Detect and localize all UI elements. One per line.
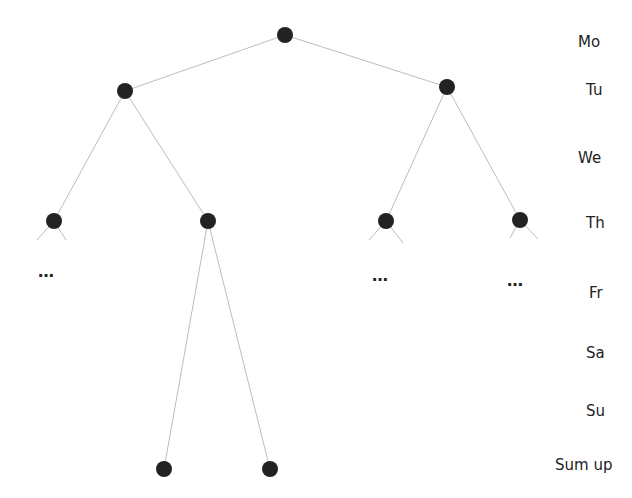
tree-node-sum-2 — [262, 461, 278, 477]
level-label-mo: Mo — [578, 33, 600, 51]
level-label-fr: Fr — [589, 284, 603, 302]
edge — [386, 87, 447, 221]
tree-node-th-3 — [378, 213, 394, 229]
ellipsis-left: … — [38, 262, 55, 281]
tree-diagram — [0, 0, 632, 498]
level-label-th: Th — [586, 214, 605, 232]
level-label-sum-up: Sum up — [555, 456, 612, 474]
edge — [208, 221, 270, 469]
level-label-we: We — [578, 149, 601, 167]
tree-node-sum-1 — [156, 461, 172, 477]
edge — [447, 87, 520, 220]
edge — [164, 221, 208, 469]
ellipsis-middle: … — [372, 266, 389, 285]
level-label-sa: Sa — [586, 344, 605, 362]
tree-node-th-1 — [46, 213, 62, 229]
level-label-su: Su — [586, 402, 605, 420]
edge — [125, 35, 285, 91]
tree-node-th-2 — [200, 213, 216, 229]
edge — [54, 91, 125, 221]
tree-node-mo — [277, 27, 293, 43]
edge — [285, 35, 447, 87]
ellipsis-right: … — [507, 271, 524, 290]
edge — [125, 91, 208, 221]
tree-node-tu-right — [439, 79, 455, 95]
tree-node-th-4 — [512, 212, 528, 228]
level-label-tu: Tu — [586, 81, 602, 99]
tree-node-tu-left — [117, 83, 133, 99]
